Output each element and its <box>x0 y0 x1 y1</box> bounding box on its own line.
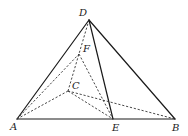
vertex-label-b: B <box>171 122 179 133</box>
edge-DE <box>89 20 113 119</box>
vertex-label-f: F <box>82 43 91 54</box>
edge-CE-hidden <box>68 91 113 119</box>
edge-DB <box>89 20 175 119</box>
pyramid-diagram: D F C A E B <box>0 0 188 136</box>
edge-CB-hidden <box>68 91 175 119</box>
edge-AC-hidden <box>17 91 68 119</box>
vertex-label-d: D <box>78 7 87 18</box>
vertex-label-a: A <box>9 121 17 132</box>
edge-FE-hidden <box>79 54 113 119</box>
vertex-label-c: C <box>72 80 80 91</box>
edge-DA <box>17 20 89 119</box>
vertex-label-e: E <box>111 122 120 133</box>
